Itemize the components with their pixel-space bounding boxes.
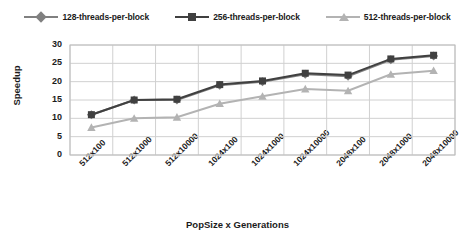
data-point-marker xyxy=(345,72,352,79)
data-point-marker xyxy=(173,96,180,103)
data-point-marker xyxy=(88,111,95,118)
data-point-marker xyxy=(430,52,437,59)
data-point-marker xyxy=(131,97,138,104)
plot-area xyxy=(0,0,475,239)
data-point-marker xyxy=(216,81,223,88)
data-point-marker xyxy=(387,55,394,62)
speedup-line-chart: 128-threads-per-block256-threads-per-blo… xyxy=(0,0,475,239)
data-point-marker xyxy=(302,70,309,77)
data-point-marker xyxy=(259,77,266,84)
